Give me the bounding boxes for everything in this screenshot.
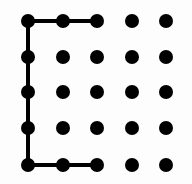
dot-r2-c3 bbox=[125, 85, 139, 99]
dot-r3-c1 bbox=[56, 121, 70, 135]
dot-r3-c4 bbox=[159, 121, 173, 135]
dot-r4-c3 bbox=[125, 158, 139, 172]
dot-r1-c3 bbox=[125, 50, 139, 64]
dot-r3-c0 bbox=[21, 121, 35, 135]
dot-r4-c2 bbox=[90, 158, 104, 172]
dot-r3-c3 bbox=[125, 121, 139, 135]
dot-r3-c2 bbox=[90, 121, 104, 135]
dot-r2-c4 bbox=[159, 85, 173, 99]
dot-grid bbox=[21, 14, 173, 172]
dot-r4-c4 bbox=[159, 158, 173, 172]
dot-r2-c1 bbox=[56, 85, 70, 99]
dot-grid-diagram bbox=[0, 0, 192, 184]
dot-r2-c2 bbox=[90, 85, 104, 99]
dot-r1-c2 bbox=[90, 50, 104, 64]
dot-r0-c3 bbox=[125, 14, 139, 28]
dot-r4-c0 bbox=[21, 158, 35, 172]
dot-r1-c0 bbox=[21, 50, 35, 64]
dot-r1-c4 bbox=[159, 50, 173, 64]
dot-grid-svg bbox=[0, 0, 192, 184]
dot-r4-c1 bbox=[56, 158, 70, 172]
dot-r1-c1 bbox=[56, 50, 70, 64]
dot-r0-c0 bbox=[21, 14, 35, 28]
dot-r0-c2 bbox=[90, 14, 104, 28]
dot-r2-c0 bbox=[21, 85, 35, 99]
dot-r0-c1 bbox=[56, 14, 70, 28]
dot-r0-c4 bbox=[159, 14, 173, 28]
